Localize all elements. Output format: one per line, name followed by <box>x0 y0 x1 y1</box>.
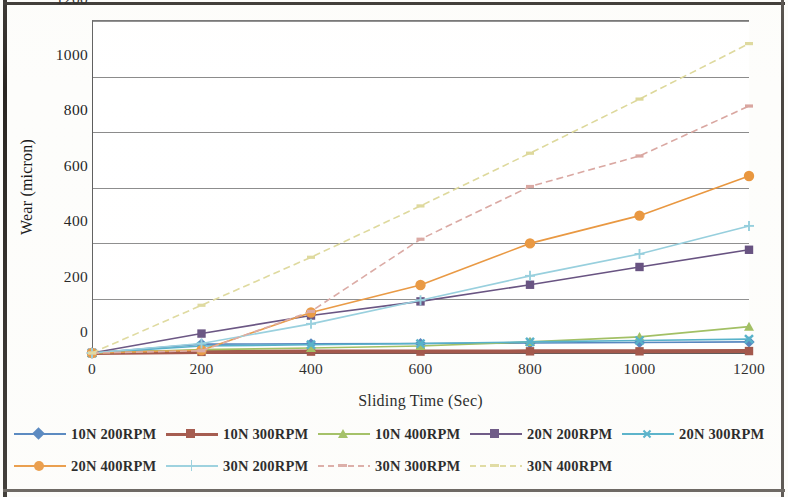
data-point-marker <box>88 351 96 354</box>
y-tick-label: 200 <box>28 268 88 286</box>
x-axis-ticks: 020040060080010001200 <box>92 360 749 382</box>
data-point-marker <box>197 329 205 337</box>
legend-marker-shape <box>338 464 347 467</box>
data-point-marker <box>525 271 535 281</box>
legend-marker-shape <box>186 429 195 438</box>
data-point-marker <box>525 238 535 248</box>
legend-label: 30N 300RPM <box>375 458 460 475</box>
legend-marker-triangle-icon <box>338 429 348 438</box>
legend-marker-plus-icon <box>186 460 197 471</box>
legend-item-20n-200rpm[interactable]: 20N 200RPM <box>470 424 612 444</box>
legend-label: 10N 200RPM <box>71 426 156 443</box>
legend-row-2: 20N 400RPM30N 200RPM30N 300RPM30N 400RPM <box>14 456 776 482</box>
legend-label: 20N 400RPM <box>71 458 156 475</box>
legend-swatch <box>166 459 218 473</box>
legend-marker-square-icon <box>490 429 499 438</box>
data-point-marker <box>634 210 644 220</box>
data-point-marker <box>745 347 753 355</box>
legend-label: 20N 200RPM <box>527 426 612 443</box>
x-axis-title: Sliding Time (Sec) <box>92 392 749 410</box>
data-point-marker <box>745 42 753 45</box>
y-tick-label: 400 <box>28 212 88 230</box>
y-tick-label: 1200 <box>28 0 88 8</box>
series-30n-300rpm <box>88 104 753 354</box>
legend-swatch <box>470 459 522 473</box>
legend-marker-shape <box>490 464 499 467</box>
series-line <box>92 106 749 353</box>
legend-label: 20N 300RPM <box>679 426 764 443</box>
data-point-marker <box>636 154 644 157</box>
legend-item-10n-200rpm[interactable]: 10N 200RPM <box>14 424 156 444</box>
chart-series-layer <box>92 20 749 353</box>
data-point-marker <box>744 322 754 331</box>
legend-marker-x-icon <box>642 429 652 439</box>
legend-marker-shape <box>186 460 197 471</box>
data-point-marker <box>415 280 425 290</box>
data-point-marker <box>307 256 315 259</box>
legend-item-30n-300rpm[interactable]: 30N 300RPM <box>318 456 460 476</box>
data-point-marker <box>745 246 753 254</box>
legend-item-20n-300rpm[interactable]: 20N 300RPM <box>622 424 764 444</box>
x-tick-label: 1000 <box>605 360 675 378</box>
data-point-marker <box>417 238 425 241</box>
data-point-marker <box>526 281 534 289</box>
series-line <box>92 44 749 353</box>
legend-row-1: 10N 200RPM10N 300RPM10N 400RPM20N 200RPM… <box>14 424 776 450</box>
x-tick-label: 0 <box>57 360 127 378</box>
legend-item-30n-200rpm[interactable]: 30N 200RPM <box>166 456 308 476</box>
x-tick-label: 400 <box>276 360 346 378</box>
page-border-bottom <box>3 489 785 492</box>
x-tick-label: 800 <box>495 360 565 378</box>
data-point-marker <box>635 249 645 259</box>
data-point-marker <box>526 185 534 188</box>
x-tick-label: 600 <box>386 360 456 378</box>
data-point-marker <box>526 152 534 155</box>
y-tick-label: 0 <box>28 323 88 341</box>
data-point-marker <box>307 310 315 313</box>
data-point-marker <box>635 347 643 355</box>
data-point-marker <box>526 347 534 355</box>
series-30n-400rpm <box>88 42 753 355</box>
data-point-marker <box>745 104 753 107</box>
page-border-top <box>3 2 785 5</box>
legend-swatch <box>14 427 66 441</box>
legend-swatch <box>470 427 522 441</box>
legend-marker-shape <box>34 461 44 471</box>
chart-legend: 10N 200RPM10N 300RPM10N 400RPM20N 200RPM… <box>14 424 776 484</box>
legend-item-10n-400rpm[interactable]: 10N 400RPM <box>318 424 460 444</box>
legend-marker-dash-icon <box>338 464 347 467</box>
legend-label: 10N 400RPM <box>375 426 460 443</box>
x-tick-label: 200 <box>167 360 237 378</box>
legend-marker-shape <box>642 429 652 439</box>
data-point-marker <box>417 204 425 207</box>
x-tick-label: 1200 <box>714 360 784 378</box>
legend-marker-shape <box>338 429 348 438</box>
y-tick-label: 1000 <box>28 46 88 64</box>
y-tick-label: 600 <box>28 157 88 175</box>
page-border-right <box>781 0 784 497</box>
data-point-marker <box>636 97 644 100</box>
legend-item-20n-400rpm[interactable]: 20N 400RPM <box>14 456 156 476</box>
data-point-marker <box>198 349 206 352</box>
page-border-left <box>3 0 7 497</box>
data-point-marker <box>306 319 316 329</box>
legend-marker-shape <box>32 427 45 440</box>
legend-swatch <box>166 427 218 441</box>
y-axis-title: Wear (micron) <box>18 97 36 277</box>
legend-item-30n-400rpm[interactable]: 30N 400RPM <box>470 456 612 476</box>
data-point-marker <box>198 304 206 307</box>
legend-label: 10N 300RPM <box>223 426 308 443</box>
legend-marker-shape <box>490 429 499 438</box>
legend-item-10n-300rpm[interactable]: 10N 300RPM <box>166 424 308 444</box>
legend-swatch <box>14 459 66 473</box>
legend-swatch <box>622 427 674 441</box>
legend-marker-dash-icon <box>490 464 499 467</box>
data-point-marker <box>744 221 754 231</box>
data-point-marker <box>635 263 643 271</box>
legend-marker-square-icon <box>186 429 195 438</box>
y-tick-label: 800 <box>28 101 88 119</box>
legend-label: 30N 400RPM <box>527 458 612 475</box>
legend-marker-circle-icon <box>34 461 44 471</box>
legend-label: 30N 200RPM <box>223 458 308 475</box>
legend-swatch <box>318 459 370 473</box>
